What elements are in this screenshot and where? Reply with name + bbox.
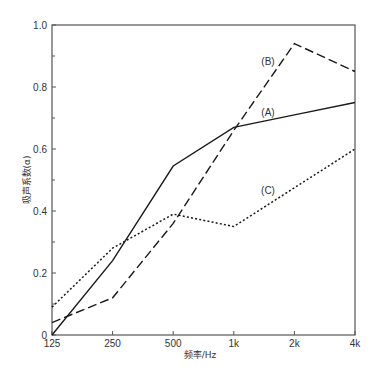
x-tick-label: 500 — [165, 338, 182, 349]
y-tick-label: 1.0 — [33, 20, 47, 31]
y-tick-label: 0.6 — [33, 144, 47, 155]
x-tick-label: 250 — [104, 338, 121, 349]
series-line-c — [52, 149, 355, 307]
series-line-a — [52, 103, 355, 336]
y-tick-label: 0.2 — [33, 268, 47, 279]
plot-border — [52, 25, 355, 335]
y-tick-label: 0.4 — [33, 206, 47, 217]
x-axis-ticks: 1252505001k2k4k — [44, 331, 362, 349]
absorption-coefficient-chart: 00.20.40.60.81.0 1252505001k2k4k (A)(B)(… — [0, 0, 382, 377]
x-tick-label: 125 — [44, 338, 61, 349]
x-tick-label: 1k — [229, 338, 241, 349]
y-tick-label: 0.8 — [33, 82, 47, 93]
series-line-b — [52, 44, 355, 323]
series-label-a: (A) — [261, 107, 274, 118]
x-tick-label: 4k — [350, 338, 362, 349]
series-label-b: (B) — [261, 56, 274, 67]
x-tick-label: 2k — [289, 338, 301, 349]
x-axis-title: 频率/Hz — [184, 349, 217, 360]
plot-frame — [52, 25, 355, 335]
y-axis-title: 吸声系数(α) — [21, 156, 32, 205]
series-labels: (A)(B)(C) — [261, 56, 275, 196]
series-lines — [52, 44, 355, 335]
series-label-c: (C) — [261, 185, 275, 196]
